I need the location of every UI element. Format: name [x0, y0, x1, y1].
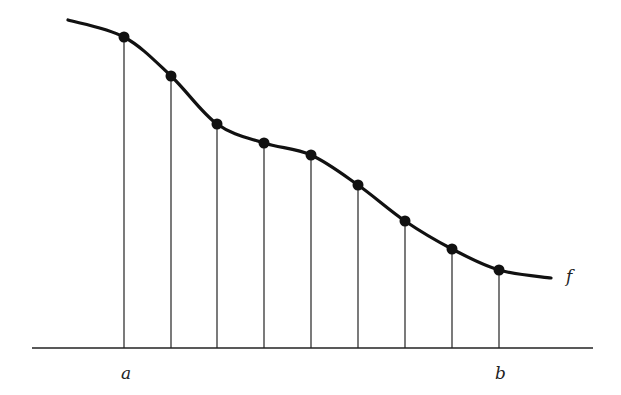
sample-point [400, 216, 411, 227]
sample-point [494, 265, 505, 276]
function-curve [68, 20, 551, 278]
label-f: f [566, 266, 572, 286]
sample-point [212, 119, 223, 130]
diagram-svg [0, 0, 621, 395]
diagram-canvas: a b f [0, 0, 621, 395]
sample-point [259, 138, 270, 149]
sample-point [447, 244, 458, 255]
sample-point [119, 32, 130, 43]
sample-point [306, 150, 317, 161]
label-a: a [121, 363, 131, 383]
sample-point [353, 180, 364, 191]
sample-point [166, 71, 177, 82]
label-b: b [495, 363, 506, 383]
